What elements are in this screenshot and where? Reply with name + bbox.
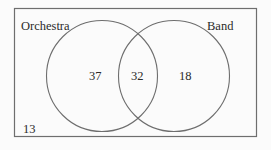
orchestra-label: Orchestra: [21, 20, 70, 33]
band-only-count: 18: [179, 70, 192, 83]
band-label: Band: [207, 20, 233, 33]
outside-count: 13: [23, 123, 36, 136]
intersection-count: 32: [131, 70, 144, 83]
orchestra-only-count: 37: [89, 70, 102, 83]
